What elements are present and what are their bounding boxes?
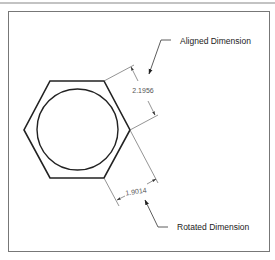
rotated-leader	[145, 200, 168, 227]
drawing-frame	[9, 12, 270, 252]
drawing-canvas: 2.1956 1.9014 Aligned Dimension Rotated …	[0, 0, 275, 260]
rotated-dimension-value: 1.9014	[125, 187, 147, 197]
hexagon-shape	[24, 81, 130, 178]
aligned-leader	[149, 40, 171, 74]
circle-shape	[37, 89, 118, 170]
aligned-dimension-value: 2.1956	[132, 87, 154, 94]
rotated-callout-label: Rotated Dimension	[177, 222, 250, 232]
aligned-callout-label: Aligned Dimension	[180, 36, 251, 46]
